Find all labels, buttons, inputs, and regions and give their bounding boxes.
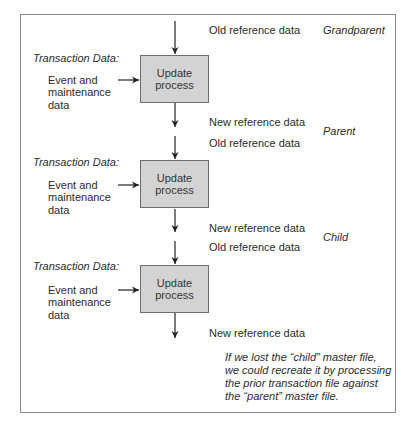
transaction-data-heading: Transaction Data: <box>33 156 119 168</box>
input-line: data <box>48 99 111 111</box>
input-line: data <box>48 204 111 216</box>
input-line: data <box>48 309 111 321</box>
input-line: maintenance <box>48 191 111 203</box>
old-reference-data-label: Old reference data <box>209 137 300 149</box>
process-line: Update <box>157 277 192 290</box>
input-line: Event and <box>48 284 111 296</box>
update-process-box: Update process <box>140 265 209 313</box>
final-new-reference-data-label: New reference data <box>209 327 305 339</box>
note-line: we could recreate it by processing <box>225 364 391 377</box>
transaction-data-heading: Transaction Data: <box>33 260 119 272</box>
note-line: If we lost the “child” master file, <box>225 351 391 364</box>
input-line: maintenance <box>48 86 111 98</box>
event-maintenance-data-input: Event and maintenance data <box>48 74 111 111</box>
input-line: Event and <box>48 74 111 86</box>
note-line: the “parent” master file. <box>225 390 391 403</box>
update-process-box: Update process <box>140 55 209 103</box>
note-line: the prior transaction file against <box>225 377 391 390</box>
old-reference-data-label: Old reference data <box>209 24 300 36</box>
process-line: process <box>155 79 194 92</box>
process-line: Update <box>157 67 192 80</box>
input-line: Event and <box>48 179 111 191</box>
process-line: Update <box>157 172 192 185</box>
event-maintenance-data-input: Event and maintenance data <box>48 179 111 216</box>
generation-label-parent: Parent <box>323 125 355 137</box>
process-line: process <box>155 184 194 197</box>
process-line: process <box>155 289 194 302</box>
recovery-note: If we lost the “child” master file, we c… <box>225 351 391 403</box>
event-maintenance-data-input: Event and maintenance data <box>48 284 111 321</box>
generation-label-grandparent: Grandparent <box>323 24 385 36</box>
transaction-data-heading: Transaction Data: <box>33 52 119 64</box>
input-line: maintenance <box>48 296 111 308</box>
update-process-box: Update process <box>140 160 209 208</box>
old-reference-data-label: Old reference data <box>209 241 300 253</box>
new-reference-data-label: New reference data <box>209 116 305 128</box>
generation-label-child: Child <box>323 231 348 243</box>
new-reference-data-label: New reference data <box>209 222 305 234</box>
